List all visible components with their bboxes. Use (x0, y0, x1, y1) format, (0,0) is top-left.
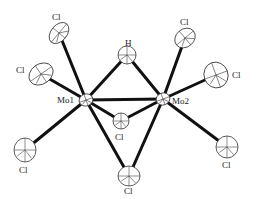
atom-cl1-ellipsoid (45, 19, 73, 48)
bond-mo1-mo2 (86, 99, 163, 100)
atom-label-h: H (125, 38, 132, 48)
atom-label-cl1: Cl (52, 12, 61, 22)
ortep-drawing: Mo1Mo2HClClClClClClClCl (0, 0, 257, 199)
atom-cl2-ellipsoid (25, 58, 58, 89)
atom-label-cl6: Cl (180, 17, 189, 27)
atom-cl3-ellipsoid (14, 138, 36, 162)
atom-label-cl3: Cl (19, 165, 28, 175)
atom-h-ellipsoid (118, 46, 136, 64)
atom-cl5-ellipsoid (118, 166, 140, 186)
atom-cl7-ellipsoid (200, 59, 231, 92)
atom-label-cl7: Cl (232, 70, 241, 80)
bond-mo2-cl5 (129, 99, 163, 176)
molecular-structure-diagram: Mo1Mo2HClClClClClClClCl (0, 0, 257, 199)
atom-label-cl2: Cl (16, 65, 25, 75)
atom-cl4-ellipsoid (113, 113, 129, 129)
bond-mo1-cl1 (59, 33, 86, 100)
bond-mo1-cl3 (25, 100, 86, 150)
atom-label-mo2: Mo2 (172, 96, 189, 106)
atom-label-cl5: Cl (124, 186, 133, 196)
atom-label-cl4: Cl (115, 132, 124, 142)
atom-label-mo1: Mo1 (57, 95, 74, 105)
atom-cl6-ellipsoid (171, 24, 199, 52)
atom-cl8-ellipsoid (216, 136, 238, 158)
bond-mo2-cl8 (163, 99, 227, 147)
atom-label-cl8: Cl (222, 160, 231, 170)
